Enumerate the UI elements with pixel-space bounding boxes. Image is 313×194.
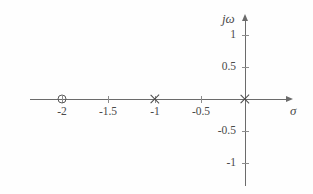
y-tick-mark — [242, 163, 249, 164]
y-tick-mark — [242, 35, 249, 36]
x-tick-label: -2 — [57, 106, 67, 118]
zero-marker — [58, 95, 67, 104]
x-tick-label: -1 — [150, 106, 160, 118]
x-tick-label: -0.5 — [192, 106, 210, 118]
jomega-axis-arrow-icon — [242, 14, 248, 21]
pole-zero-plot: σ jω -2 -1.5 -1 -0.5 1 0.5 -0.5 -1 — [0, 0, 313, 194]
y-tick-label: -0.5 — [196, 125, 236, 137]
x-axis-title: σ — [290, 104, 296, 117]
sigma-axis-arrow-icon — [286, 96, 293, 102]
y-tick-mark — [242, 131, 249, 132]
x-tick-mark — [201, 96, 202, 103]
pole-marker — [149, 93, 161, 105]
y-axis-title: jω — [222, 12, 235, 25]
y-tick-label: 1 — [196, 29, 236, 41]
y-tick-label: -1 — [196, 157, 236, 169]
y-tick-label: 0.5 — [196, 61, 236, 73]
pole-marker — [239, 93, 251, 105]
x-tick-mark — [108, 96, 109, 103]
y-tick-mark — [242, 67, 249, 68]
x-tick-label: -1.5 — [99, 106, 117, 118]
